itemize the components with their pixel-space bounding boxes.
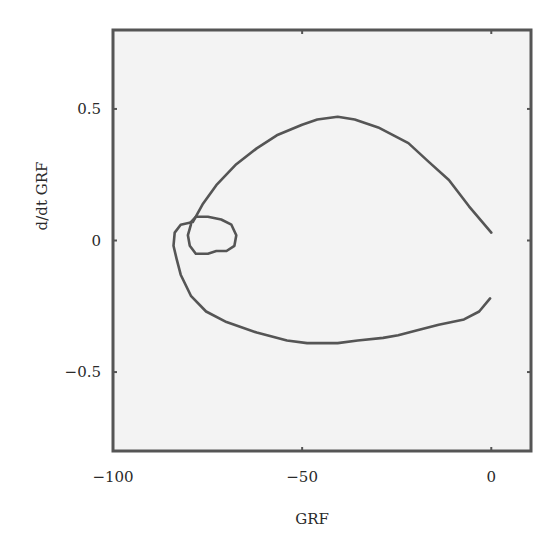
plot-area [113,30,531,451]
y-tick-label: 0 [91,232,101,250]
x-axis-label: GRF [295,510,329,528]
y-axis-label: d/dt GRF [33,162,51,231]
x-tick-label: 0 [487,468,497,486]
y-tick-label: −0.5 [65,363,101,381]
x-tick-label: −50 [286,468,318,486]
y-tick-label: 0.5 [77,100,101,118]
x-tick-label: −100 [92,468,133,486]
x-tick-labels: −100−500 [92,468,496,486]
y-tick-labels: −0.500.5 [65,100,101,381]
chart: −100−500 −0.500.5 GRF d/dt GRF [0,0,560,560]
